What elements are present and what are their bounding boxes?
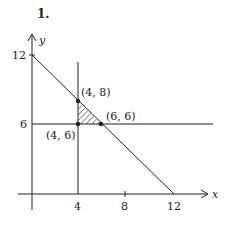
y-tick-12: 12 xyxy=(12,49,26,62)
y-axis: y 12 6 xyxy=(12,34,46,210)
x-tick-12: 12 xyxy=(167,200,181,213)
vertex-4-6 xyxy=(76,122,80,126)
y-tick-6: 6 xyxy=(20,118,27,131)
y-axis-label: y xyxy=(38,34,46,47)
x-axis: x 4 8 12 xyxy=(18,188,219,213)
x-tick-4: 4 xyxy=(74,200,81,213)
problem-number: 1. xyxy=(37,7,50,21)
vertex-6-6 xyxy=(99,122,103,126)
vertex-label-4-8: (4, 8) xyxy=(81,86,111,99)
x-axis-label: x xyxy=(212,188,219,201)
x-tick-8: 8 xyxy=(121,200,128,213)
vertex-4-8 xyxy=(76,99,80,103)
feasible-region-diagram: 1. y 12 6 x 4 8 12 (4, 8) (6, 6) (4, 6) xyxy=(0,0,238,230)
vertex-label-4-6: (4, 6) xyxy=(46,129,76,142)
shaded-region xyxy=(78,101,101,124)
vertex-label-6-6: (6, 6) xyxy=(106,110,136,123)
